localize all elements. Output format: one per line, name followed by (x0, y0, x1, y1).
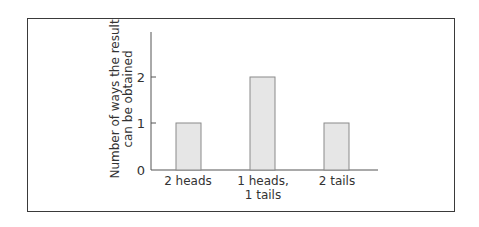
x-label-1-heads-line2: 1 tails (245, 188, 281, 202)
y-tick-label-0: 0 (137, 163, 145, 178)
bar-2-tails (324, 123, 349, 170)
x-label-1-heads-line1: 1 heads, (237, 174, 288, 188)
x-label-2-heads: 2 heads (164, 174, 212, 188)
bar-2-heads (176, 123, 201, 170)
x-label-2-tails: 2 tails (319, 174, 355, 188)
y-tick-label-2: 2 (137, 70, 145, 85)
y-tick-label-1: 1 (137, 116, 145, 131)
bar-chart: Number of ways the result can be obtaine… (0, 0, 479, 227)
bar-1-heads-1-tails (250, 77, 275, 170)
y-axis-label-line1: Number of ways the result (108, 19, 122, 178)
y-axis-label-line2: can be obtained (121, 50, 135, 147)
